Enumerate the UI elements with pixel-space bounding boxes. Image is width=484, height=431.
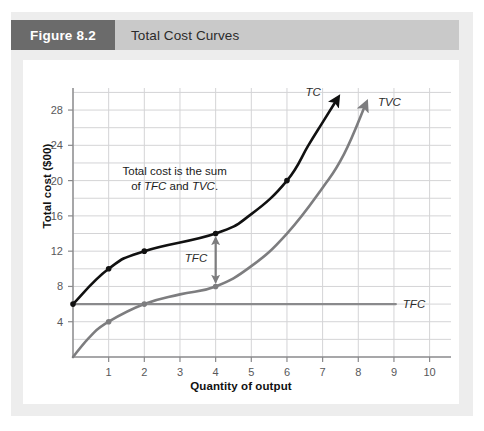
svg-text:8: 8 <box>57 280 63 292</box>
svg-text:8: 8 <box>355 366 361 378</box>
svg-text:24: 24 <box>51 139 63 151</box>
total-cost-curves-chart: 48121620242812345678910 TFC TCTVCTFC Tot… <box>23 60 459 404</box>
point-marker <box>70 301 76 307</box>
figure-container: Figure 8.2 Total Cost Curves Total cost … <box>11 12 473 416</box>
svg-text:5: 5 <box>248 366 254 378</box>
data-series <box>73 99 396 357</box>
curve-label-tvc: TVC <box>378 96 402 108</box>
point-marker <box>106 266 112 272</box>
svg-text:28: 28 <box>51 104 63 116</box>
svg-text:12: 12 <box>51 245 63 257</box>
svg-text:10: 10 <box>423 366 435 378</box>
tfc-gap-arrow: TFC <box>185 238 216 283</box>
gridlines <box>73 88 451 357</box>
svg-text:9: 9 <box>391 366 397 378</box>
curve-tvc <box>73 105 365 357</box>
svg-text:3: 3 <box>177 366 183 378</box>
point-marker <box>142 248 148 254</box>
svg-text:2: 2 <box>141 366 147 378</box>
svg-text:7: 7 <box>320 366 326 378</box>
svg-text:1: 1 <box>106 366 112 378</box>
chart-annotation: Total cost is the sumof TFC and TVC. <box>123 165 227 192</box>
curve-label-tc: TC <box>305 86 321 98</box>
annotation-line: Total cost is the sum <box>123 165 227 177</box>
point-marker <box>284 178 290 184</box>
point-marker <box>213 231 219 237</box>
figure-title: Total Cost Curves <box>131 20 239 50</box>
curve-label-tfc: TFC <box>403 298 426 310</box>
svg-text:4: 4 <box>57 316 63 328</box>
chart-card: Total cost ($00) Quantity of output 4812… <box>23 60 459 404</box>
figure-number-badge: Figure 8.2 <box>11 20 115 50</box>
point-marker <box>106 319 112 325</box>
tfc-gap-label: TFC <box>185 252 208 264</box>
svg-text:4: 4 <box>213 366 219 378</box>
point-marker <box>142 301 148 307</box>
svg-text:20: 20 <box>51 175 63 187</box>
svg-text:6: 6 <box>284 366 290 378</box>
curve-tc <box>73 99 337 304</box>
point-marker <box>213 284 219 290</box>
figure-header: Figure 8.2 Total Cost Curves <box>11 20 459 50</box>
annotation-line: of TFC and TVC. <box>131 180 218 192</box>
svg-text:16: 16 <box>51 210 63 222</box>
axis-ticks <box>68 110 430 362</box>
